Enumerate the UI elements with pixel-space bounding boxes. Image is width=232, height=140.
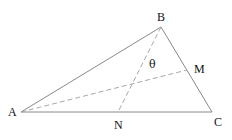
label-a: A [8, 105, 17, 119]
label-m: M [194, 62, 205, 76]
label-n: N [114, 118, 123, 132]
angle-theta-label: θ [149, 58, 156, 71]
cevian-am [21, 70, 187, 112]
side-ab [21, 27, 161, 112]
triangle-diagram: B M A N C θ [0, 0, 232, 140]
label-b: B [157, 10, 165, 24]
label-c: C [214, 115, 222, 129]
